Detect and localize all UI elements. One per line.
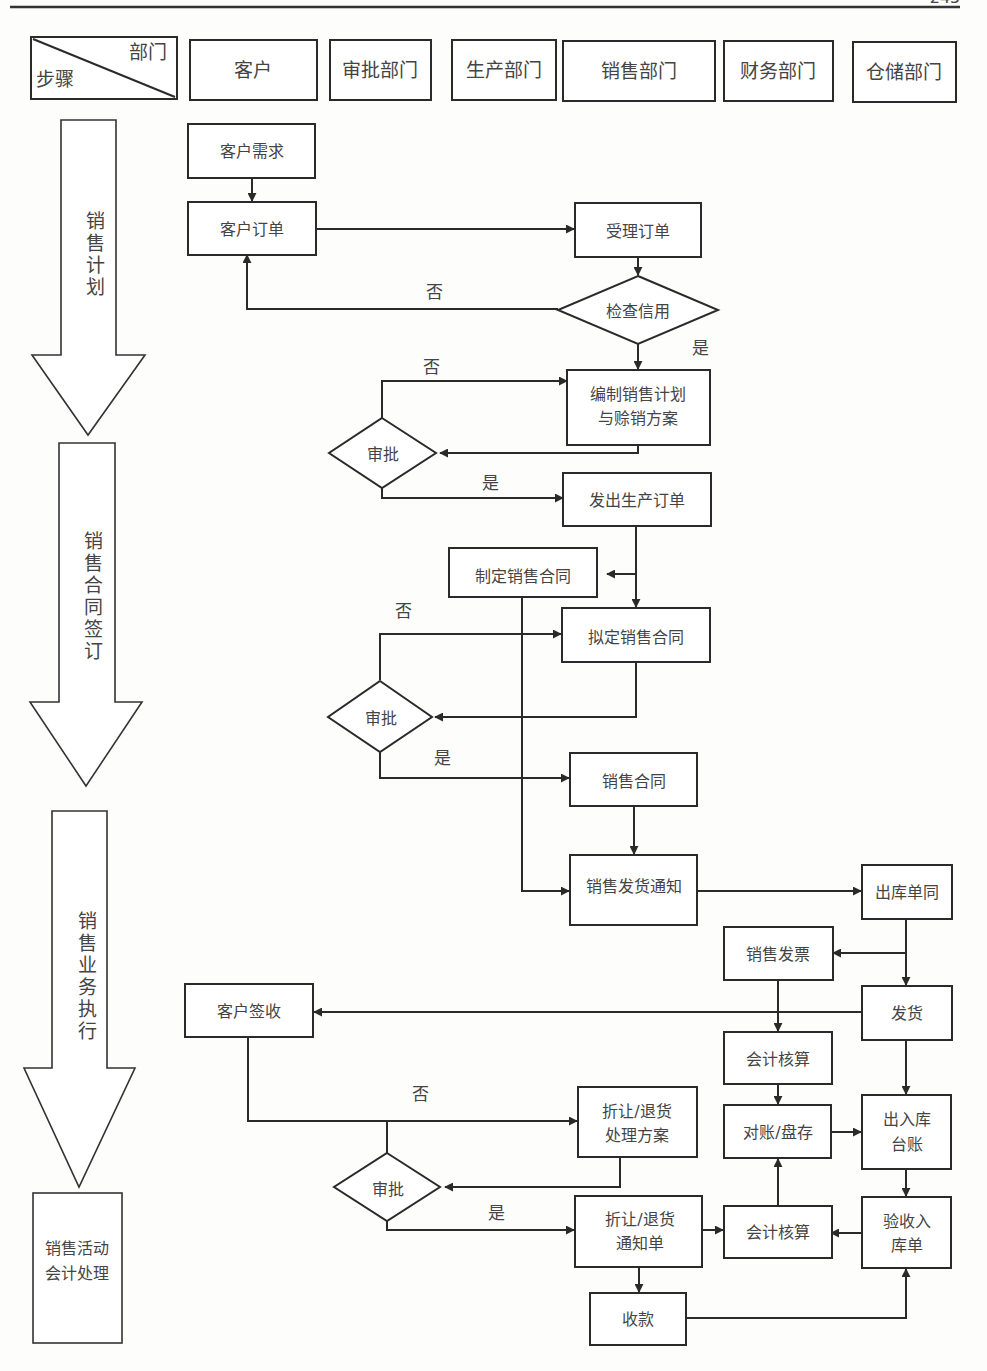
node-label: 制定销售合同 <box>475 567 571 586</box>
stage-char: 售 <box>78 932 97 954</box>
header-label-sales: 销售部门 <box>601 60 677 82</box>
node-label: 检查信用 <box>606 302 670 321</box>
label-yes: 是 <box>692 338 709 358</box>
header-label-production: 生产部门 <box>466 59 542 81</box>
header-corner-cell: 部门 步骤 <box>31 37 177 99</box>
stage-char: 务 <box>78 976 97 998</box>
node-label: 会计核算 <box>746 1223 810 1242</box>
header-row: 部门 步骤 客户 审批部门 生产部门 销售部门 财务部门 仓储部门 <box>31 37 956 102</box>
stage-line: 会计处理 <box>45 1264 109 1283</box>
stage-char: 销 <box>84 530 103 552</box>
node-sales-invoice: 销售发票 <box>724 927 833 980</box>
stage-arrow-business-execution: 销 售 业 务 执 行 <box>24 811 135 1187</box>
header-label-approval: 审批部门 <box>342 59 418 81</box>
label-no: 否 <box>426 282 443 302</box>
node-outbound-slip: 出库单同 <box>862 865 952 919</box>
node-label: 对账/盘存 <box>743 1123 812 1142</box>
header-corner-department: 部门 <box>129 41 167 63</box>
stage-char: 执 <box>78 998 97 1020</box>
node-label: 处理方案 <box>605 1126 669 1145</box>
label-no: 否 <box>395 601 412 621</box>
node-label: 审批 <box>365 709 397 728</box>
node-shipping-notice: 销售发货通知 <box>570 855 697 925</box>
node-label: 发货 <box>891 1004 923 1023</box>
node-label: 审批 <box>372 1180 404 1199</box>
node-label: 收款 <box>622 1310 654 1329</box>
decision-approve-contract: 审批 <box>328 681 432 752</box>
node-label: 会计核算 <box>746 1050 810 1069</box>
header-corner-step: 步骤 <box>36 68 74 90</box>
node-label: 折让/退货 <box>602 1102 671 1121</box>
node-label: 验收入 <box>883 1212 931 1231</box>
stage-char: 销 <box>86 210 105 232</box>
stage-char: 计 <box>86 254 105 276</box>
stage-char: 业 <box>78 954 97 976</box>
label-yes: 是 <box>434 748 451 768</box>
node-label: 出入库 <box>883 1110 931 1129</box>
stage-char: 销 <box>78 910 97 932</box>
node-label: 出库单同 <box>875 883 939 902</box>
decision-approve-return: 审批 <box>334 1153 440 1221</box>
node-label: 通知单 <box>616 1234 664 1253</box>
node-label: 编制销售计划 <box>590 385 686 404</box>
node-label: 客户订单 <box>220 220 284 239</box>
label-no: 否 <box>412 1084 429 1104</box>
header-label-warehouse: 仓储部门 <box>866 61 942 83</box>
page-number: 245 <box>930 0 961 7</box>
stage-char: 同 <box>84 596 103 618</box>
node-label: 发出生产订单 <box>589 491 685 510</box>
node-draft-contract: 拟定销售合同 <box>562 608 710 662</box>
label-no: 否 <box>423 357 440 377</box>
decision-approve-plan: 审批 <box>329 418 436 488</box>
node-accept-order: 受理订单 <box>575 203 701 257</box>
node-customer-order: 客户订单 <box>188 202 316 255</box>
stage-arrow-contract-signing: 销 售 合 同 签 订 <box>30 443 142 786</box>
header-label-customer: 客户 <box>234 59 272 81</box>
node-customer-sign: 客户签收 <box>185 984 313 1037</box>
node-label: 受理订单 <box>606 222 670 241</box>
node-label: 库单 <box>891 1236 923 1255</box>
node-label: 审批 <box>367 445 399 464</box>
node-inout-ledger: 出入库 台账 <box>862 1095 951 1169</box>
node-label: 客户签收 <box>217 1002 281 1021</box>
label-yes: 是 <box>482 473 499 493</box>
node-ship: 发货 <box>862 986 952 1040</box>
decision-check-credit: 检查信用 <box>558 276 718 344</box>
node-label: 销售发票 <box>746 945 810 964</box>
node-return-notice: 折让/退货 通知单 <box>575 1196 702 1267</box>
node-sales-contract: 销售合同 <box>570 753 697 806</box>
node-label: 销售发货通知 <box>586 877 682 896</box>
stage-char: 签 <box>84 618 103 640</box>
node-label: 台账 <box>891 1135 923 1154</box>
node-collection: 收款 <box>590 1293 686 1345</box>
stage-arrow-sales-plan: 销 售 计 划 <box>32 120 145 435</box>
stage-box-accounting: 销售活动 会计处理 <box>33 1193 122 1343</box>
node-label: 与赊销方案 <box>598 409 678 428</box>
stage-char: 售 <box>86 232 105 254</box>
node-accounting-return: 会计核算 <box>724 1206 832 1258</box>
header-label-finance: 财务部门 <box>740 60 816 82</box>
node-return-plan: 折让/退货 处理方案 <box>578 1087 697 1157</box>
stage-line: 销售活动 <box>45 1239 109 1258</box>
stage-char: 划 <box>86 276 105 298</box>
stage-char: 行 <box>78 1020 97 1042</box>
node-issue-production-order: 发出生产订单 <box>563 473 711 526</box>
node-label: 拟定销售合同 <box>588 628 684 647</box>
node-accounting-invoice: 会计核算 <box>724 1032 832 1084</box>
node-reconcile-inventory: 对账/盘存 <box>724 1105 831 1158</box>
sales-process-flowchart: 245 部门 步骤 客户 审批部门 生产部门 销售部门 财务部门 仓储部门 销 … <box>0 0 987 1371</box>
stage-char: 订 <box>84 640 103 662</box>
label-yes: 是 <box>488 1203 505 1223</box>
node-label: 销售合同 <box>602 772 666 791</box>
node-sales-plan: 编制销售计划 与赊销方案 <box>567 370 710 445</box>
stage-char: 合 <box>84 574 103 596</box>
stage-char: 售 <box>84 552 103 574</box>
node-label: 客户需求 <box>220 142 284 161</box>
node-make-contract: 制定销售合同 <box>449 548 597 597</box>
node-customer-demand: 客户需求 <box>188 124 315 178</box>
node-receipt-slip: 验收入 库单 <box>862 1197 951 1268</box>
node-label: 折让/退货 <box>605 1210 674 1229</box>
